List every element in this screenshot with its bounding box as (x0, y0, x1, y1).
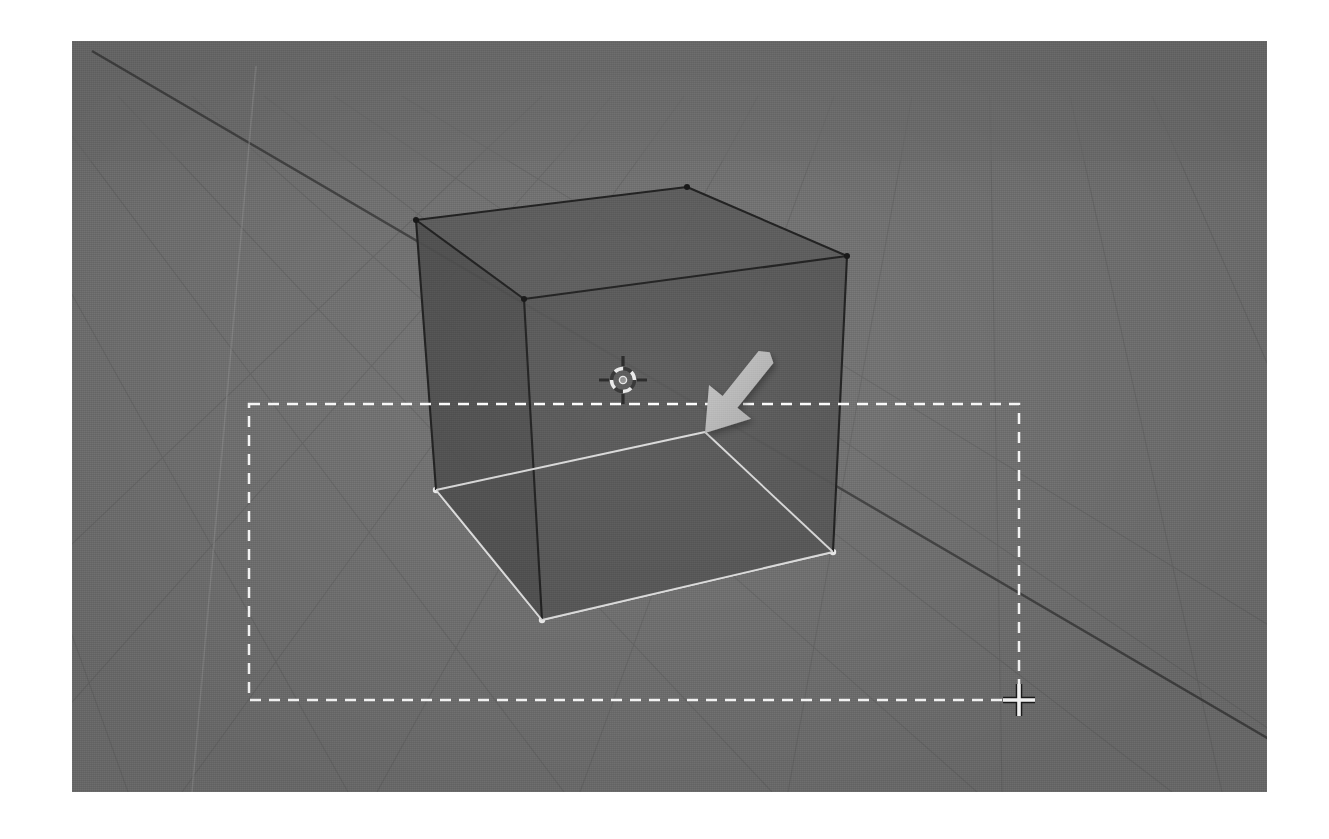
3d-viewport[interactable] (72, 41, 1267, 792)
screenshot-root (0, 0, 1329, 839)
viewport-canvas[interactable] (72, 41, 1267, 792)
